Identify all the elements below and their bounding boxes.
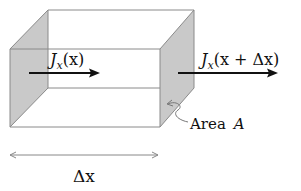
length-dimension-line: [10, 152, 158, 158]
flux-out-label: Jx(x + Δx): [198, 50, 279, 72]
area-label: AreaA: [189, 115, 245, 133]
right-face-area-a: [160, 10, 194, 127]
left-face: [10, 10, 48, 127]
flux-in-label: Jx(x): [47, 50, 84, 72]
length-label: Δx: [73, 166, 95, 186]
diagram-canvas: Jx(x) Jx(x + Δx) AreaA Δx: [0, 0, 301, 191]
